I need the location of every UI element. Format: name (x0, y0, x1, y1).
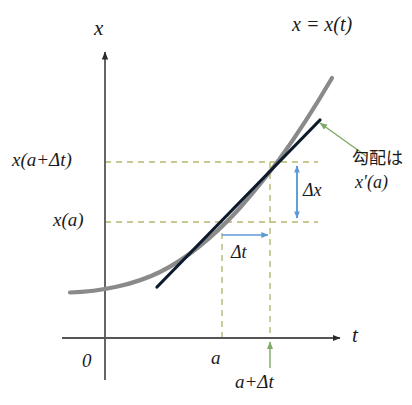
x-value-a-plus-dt-label: a+Δt (235, 372, 274, 391)
guide-lines (105, 162, 318, 338)
t-axis-label: t (352, 325, 358, 346)
function-curve (70, 78, 332, 293)
x-value-a-label: a (211, 348, 221, 367)
curve-label: x = x(t) (292, 14, 352, 34)
y-value-low-label: x(a) (53, 210, 84, 229)
y-value-high-label: x(a+Δt) (12, 150, 72, 169)
delta-x-label: Δx (303, 181, 322, 199)
x-axis-label: x (94, 18, 103, 39)
origin-label: 0 (82, 351, 92, 370)
axes (62, 52, 340, 380)
derivative-diagram: x t x = x(t) x(a+Δt) x(a) 0 a a+Δt Δx Δt… (0, 0, 412, 405)
slope-annotation-line2: x′(a) (355, 173, 388, 191)
delta-t-label: Δt (231, 243, 247, 261)
slope-annotation-line1: 勾配は (352, 150, 403, 167)
diagram-canvas (0, 0, 412, 405)
